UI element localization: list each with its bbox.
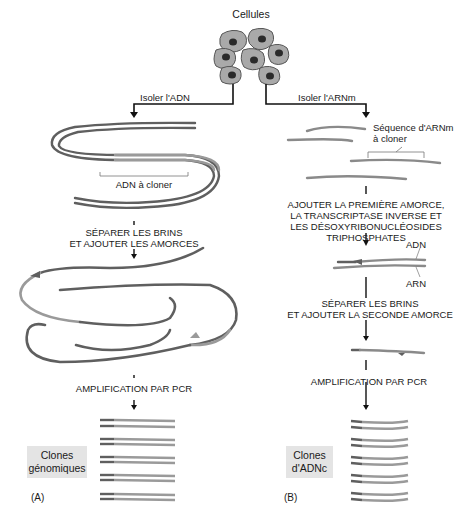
panel-a-label: (A) — [31, 492, 44, 503]
cdna-clones — [351, 421, 408, 501]
dna-to-clone-label: ADN à cloner — [116, 179, 173, 190]
arrow-down-icon — [363, 405, 369, 410]
panel-b-label: (B) — [284, 492, 297, 503]
left-pcr-label: AMPLIFICATION PAR PCR — [76, 383, 192, 394]
right-step1-line3: LES DÉSOXYRIBONUCLÉOSIDES — [290, 221, 442, 232]
hybrid-strands — [334, 259, 425, 268]
genomic-clones-box: Clones génomiques — [27, 446, 87, 478]
cdna-clones-box: Clones d'ADNc — [286, 446, 333, 478]
isolate-dna-label: Isoler l'ADN — [140, 92, 190, 103]
right-step1-line1: AJOUTER LA PREMIÈRE AMORCE, — [288, 199, 445, 210]
right-step1-line2: LA TRANSCRIPTASE INVERSE ET — [290, 210, 442, 221]
left-step1-line2: ET AJOUTER LES AMORCES — [69, 238, 198, 249]
cdna-clones-line2: d'ADNc — [292, 462, 327, 475]
right-step2-line2: ET AJOUTER LA SECONDE AMORCE — [287, 309, 453, 320]
arrow-down-icon — [131, 405, 137, 410]
right-step1-line4: TRIPHOSPHATES — [326, 232, 406, 243]
genomic-dna — [52, 123, 219, 208]
separated-strands — [20, 248, 236, 362]
arrow-down-icon — [362, 112, 370, 118]
genomic-clones — [100, 420, 175, 500]
mrna-seq-label-1: Séquence d'ARNm — [373, 122, 454, 133]
arrow-down-icon — [131, 254, 137, 259]
single-strand — [352, 350, 424, 353]
arrow-down-icon — [130, 112, 138, 118]
diagram-graphics — [0, 0, 472, 519]
primer-icon — [398, 353, 405, 356]
target-bracket — [368, 152, 424, 158]
isolate-mrna-label: Isoler l'ARNm — [298, 92, 356, 103]
primer-icon — [190, 332, 200, 338]
mrna-strands — [288, 127, 440, 179]
cdna-clones-line1: Clones — [292, 449, 327, 462]
genomic-clones-line1: Clones — [28, 449, 85, 462]
right-step2-line1: SÉPARER LES BRINS — [322, 298, 419, 309]
cells-label: Cellules — [232, 9, 269, 20]
dna-label: ADN — [406, 239, 426, 250]
target-bracket — [100, 172, 188, 176]
arrow-down-icon — [363, 336, 369, 341]
genomic-clones-line2: génomiques — [28, 462, 85, 475]
mrna-seq-label-2: à cloner — [373, 133, 407, 144]
rna-label: ARN — [406, 278, 426, 289]
left-step1-line1: SÉPARER LES BRINS — [86, 227, 183, 238]
right-pcr-label: AMPLIFICATION PAR PCR — [311, 376, 427, 387]
